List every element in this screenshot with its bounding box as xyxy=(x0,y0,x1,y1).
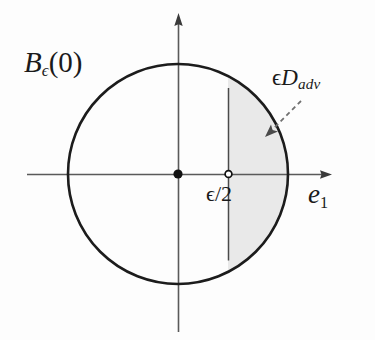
ball-label: Bϵ(0) xyxy=(24,48,83,80)
y-axis-arrowhead xyxy=(174,13,182,26)
x-axis-label-base: e xyxy=(308,179,320,209)
dadv-label-subscript: adv xyxy=(298,75,321,92)
ball-label-subscript: ϵ xyxy=(42,61,49,80)
dadv-label-base: D xyxy=(281,65,298,90)
half-epsilon-label: ϵ/2 xyxy=(206,183,232,205)
ball-label-tail: (0) xyxy=(49,46,83,78)
x-axis-label: e1 xyxy=(308,181,328,211)
x-axis-arrowhead xyxy=(320,170,332,179)
half-epsilon-dot xyxy=(225,171,232,178)
origin-dot xyxy=(173,169,182,178)
ball-label-base: B xyxy=(24,46,42,78)
dadv-label: ϵDadv xyxy=(272,66,320,91)
math-figure: Bϵ(0) ϵDadv ϵ/2 e1 xyxy=(0,0,375,340)
x-axis-label-subscript: 1 xyxy=(320,194,328,212)
dadv-label-prefix: ϵ xyxy=(272,65,281,90)
